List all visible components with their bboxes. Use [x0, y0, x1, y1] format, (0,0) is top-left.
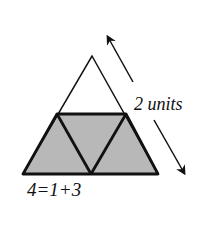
side-length-label: 2 units [134, 94, 183, 115]
arrow-down-icon [154, 120, 183, 171]
shaded-trapezoid [23, 114, 158, 174]
arrow-up-icon [109, 39, 133, 82]
equation-label: 4=1+3 [27, 179, 81, 201]
